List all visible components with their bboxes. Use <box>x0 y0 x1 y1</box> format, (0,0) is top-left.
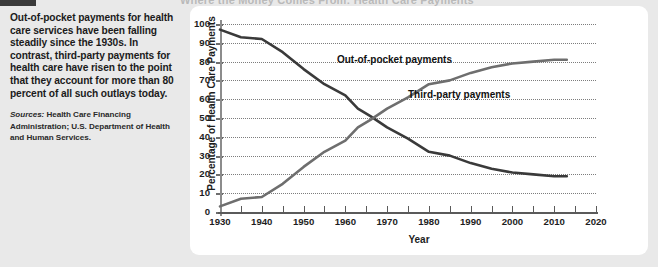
sources-label: Sources: <box>10 110 44 119</box>
series-annotation: Third-party payments <box>408 89 510 100</box>
sources-line: Sources: Health Care Financing Administr… <box>10 109 182 143</box>
corner-accent-bar <box>0 0 36 6</box>
chart-panel: Percentage of Health Care Payments Year … <box>190 6 648 255</box>
caption-text: Out-of-pocket payments for health care s… <box>10 12 182 100</box>
figure-root: Where the Money Comes From: Health Care … <box>0 0 658 267</box>
series-annotation: Out-of-pocket payments <box>337 54 452 65</box>
series-line <box>220 60 567 207</box>
caption-column: Out-of-pocket payments for health care s… <box>10 12 182 143</box>
data-lines <box>190 6 648 255</box>
series-line <box>220 30 567 177</box>
